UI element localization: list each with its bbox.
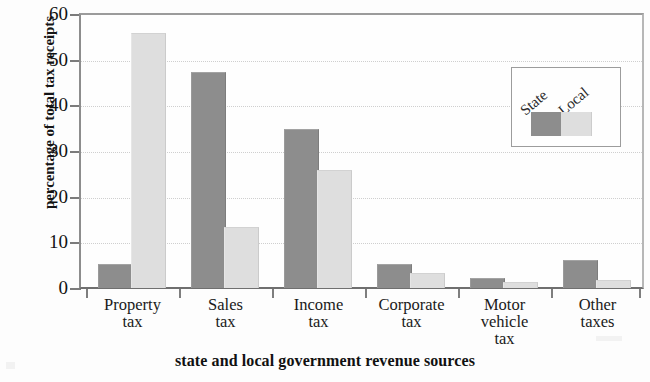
bar-state: [563, 260, 598, 289]
x-category-line: Corporate: [365, 296, 458, 313]
bar-local: [410, 273, 445, 288]
x-category-line: tax: [458, 330, 551, 347]
x-axis-title: state and local government revenue sourc…: [0, 352, 650, 370]
y-tick-label: 40: [32, 94, 68, 116]
bar-local: [596, 280, 631, 288]
x-category-label-income-tax: Income tax: [272, 296, 365, 330]
bar-state: [284, 129, 319, 288]
bar-state: [377, 264, 412, 288]
legend-swatch-state: [531, 112, 561, 136]
bar-local: [131, 33, 166, 288]
bar-state: [191, 72, 226, 288]
y-tick-label: 60: [32, 3, 68, 25]
bar-group: [466, 13, 546, 288]
y-tick-label: 30: [32, 140, 68, 162]
x-category-line: taxes: [551, 313, 644, 330]
x-category-label-corporate-tax: Corporate tax: [365, 296, 458, 330]
x-category-line: tax: [365, 313, 458, 330]
x-category-label-sales-tax: Sales tax: [179, 296, 272, 330]
x-category-line: Income: [272, 296, 365, 313]
y-tick-label: 0: [32, 277, 68, 299]
bar-group: [280, 13, 360, 288]
y-tick-label: 10: [32, 231, 68, 253]
bar-local: [224, 227, 259, 288]
bar-group: [94, 13, 174, 288]
y-tick-label: 20: [32, 186, 68, 208]
x-category-line: Property: [86, 296, 179, 313]
x-category-line: Other: [551, 296, 644, 313]
bar-state: [470, 278, 505, 288]
x-category-line: tax: [86, 313, 179, 330]
x-category-label-property-tax: Property tax: [86, 296, 179, 330]
x-category-line: tax: [272, 313, 365, 330]
x-category-label-motor-vehicle-tax: Motor vehicle tax: [458, 296, 551, 347]
bar-local: [503, 282, 538, 288]
bar-state: [98, 264, 133, 288]
y-tick-label: 50: [32, 49, 68, 71]
x-axis-category-labels: Property tax Sales tax Income tax Corpor…: [81, 296, 642, 352]
y-axis-tick-labels: 60 50 40 30 20 10 0: [28, 0, 68, 382]
bar-group: [373, 13, 453, 288]
x-category-line: Sales: [179, 296, 272, 313]
x-category-line: tax: [179, 313, 272, 330]
legend-swatches: [531, 112, 592, 136]
x-category-label-other-taxes: Other taxes: [551, 296, 644, 330]
bar-local: [317, 170, 352, 288]
chart-screenshot: percentage of total tax receipts 60 50 4…: [0, 0, 650, 382]
bars-layer: [81, 13, 642, 288]
x-category-line: Motor: [458, 296, 551, 313]
bar-group: [187, 13, 267, 288]
legend-swatch-local: [561, 112, 592, 136]
legend: State Local: [511, 67, 621, 147]
bar-group: [559, 13, 639, 288]
x-category-line: vehicle: [458, 313, 551, 330]
